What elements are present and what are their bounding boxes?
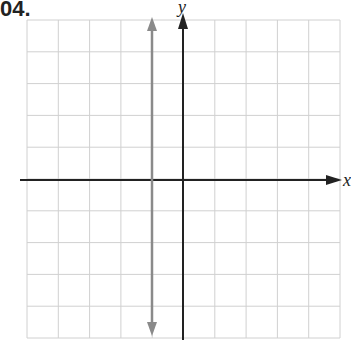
- plotted-line-top-arrow-icon: [147, 17, 157, 31]
- plotted-line-bottom-arrow-icon: [147, 322, 157, 336]
- y-axis-label: y: [176, 0, 186, 17]
- coordinate-plane: y x: [0, 0, 351, 345]
- x-axis-label: x: [342, 170, 351, 190]
